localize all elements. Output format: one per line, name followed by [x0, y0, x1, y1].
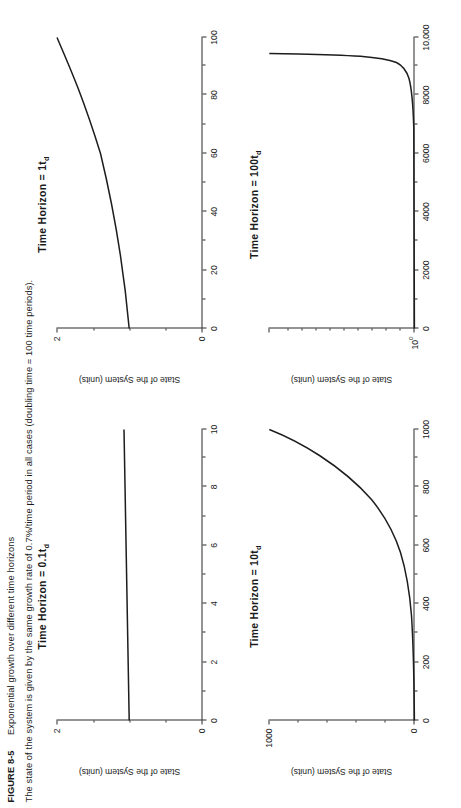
x-tick-label: 4 — [208, 601, 218, 606]
y-tick — [201, 720, 202, 724]
x-tick-label: 0 — [420, 718, 430, 723]
x-tick — [414, 93, 418, 94]
y-tick-label: 2 — [51, 728, 61, 733]
x-tick — [202, 719, 206, 720]
figure-rotated-canvas: FIGURE 8-5 Exponential growth over diffe… — [0, 0, 461, 808]
chart-title-0p1td: Time Horizon = 0.1td — [36, 410, 50, 782]
x-tick — [414, 428, 418, 429]
y-tick — [268, 720, 269, 724]
x-tick — [202, 485, 206, 486]
series-line-0p1td — [56, 428, 202, 720]
x-tick — [202, 36, 206, 37]
y-tick — [56, 328, 57, 332]
y-tick — [56, 720, 57, 724]
y-tick-label: 0 — [196, 336, 206, 341]
x-tick-label: 0 — [208, 326, 218, 331]
figure-title: Exponential growth over different time h… — [5, 536, 15, 734]
x-tick — [202, 602, 206, 603]
y-tick-label: 0 — [196, 728, 206, 733]
y-tick — [268, 328, 269, 332]
y-tick-label-log: 100 — [407, 336, 420, 349]
y-tick-label: 1000 — [263, 728, 273, 747]
x-tick-label: 400 — [420, 596, 430, 610]
series-line-10td — [268, 428, 414, 720]
x-tick-label: 10 — [208, 424, 218, 434]
y-axis-title-100td: State of the System (units) — [268, 372, 414, 386]
y-tick — [413, 328, 414, 332]
x-tick-label: 10,000 — [420, 24, 430, 50]
x-tick-label: 800 — [420, 479, 430, 493]
figure-caption-text: The state of the system is given by the … — [22, 102, 34, 802]
figure-number-label: FIGURE 8-5 — [5, 750, 15, 802]
chart-title-100td: Time Horizon = 100td — [248, 18, 262, 390]
x-tick-label: 4000 — [420, 202, 430, 221]
x-tick-label: 1000 — [420, 419, 430, 438]
x-tick-label: 100 — [208, 30, 218, 44]
x-tick-label: 2 — [208, 659, 218, 664]
x-tick — [202, 269, 206, 270]
chart-grid: Time Horizon = 0.1td State of the System… — [36, 10, 456, 782]
x-tick-label: 600 — [420, 538, 430, 552]
x-tick-label: 8 — [208, 484, 218, 489]
x-tick — [414, 661, 418, 662]
plot-area-0p1td: 0 2 4 6 8 10 0 2 — [56, 428, 202, 720]
series-line-100td — [268, 36, 414, 328]
chart-panel-10td: Time Horizon = 10td State of the System … — [248, 410, 452, 782]
plot-area-100td: 0 2000 4000 6000 8000 10,000 — [268, 36, 414, 328]
x-tick — [202, 327, 206, 328]
x-tick-label: 0 — [420, 326, 430, 331]
x-tick-label: 40 — [208, 206, 218, 216]
figure-page: FIGURE 8-5 Exponential growth over diffe… — [0, 0, 461, 808]
y-tick — [413, 720, 414, 724]
chart-title-1td: Time Horizon = 1td — [36, 18, 50, 390]
plot-area-10td: 0 200 400 600 800 1000 0 1000 — [268, 428, 414, 720]
x-tick — [202, 210, 206, 211]
figure-caption-block: FIGURE 8-5 Exponential growth over diffe… — [4, 102, 34, 802]
x-tick — [202, 428, 206, 429]
x-tick — [414, 544, 418, 545]
x-tick — [202, 544, 206, 545]
chart-panel-0p1td: Time Horizon = 0.1td State of the System… — [36, 410, 240, 782]
series-line-1td — [56, 36, 202, 328]
chart-title-10td: Time Horizon = 10td — [248, 410, 262, 782]
x-tick — [414, 36, 418, 37]
x-tick-label: 6 — [208, 542, 218, 547]
x-tick-label: 200 — [420, 654, 430, 668]
x-tick-label: 20 — [208, 265, 218, 275]
x-tick-label: 60 — [208, 148, 218, 158]
plot-area-1td: 0 20 40 60 80 100 0 2 — [56, 36, 202, 328]
x-tick — [414, 485, 418, 486]
x-tick-label: 2000 — [420, 260, 430, 279]
y-tick-label: 2 — [51, 336, 61, 341]
chart-panel-100td: Time Horizon = 100td State of the System… — [248, 18, 452, 390]
x-tick — [202, 152, 206, 153]
chart-panel-1td: Time Horizon = 1td State of the System (… — [36, 18, 240, 390]
y-tick-label: 0 — [408, 728, 418, 733]
x-tick-label: 6000 — [420, 143, 430, 162]
y-axis-title-10td: State of the System (units) — [268, 764, 414, 778]
y-axis-title-0p1td: State of the System (units) — [56, 764, 202, 778]
x-tick — [202, 93, 206, 94]
x-tick-label: 80 — [208, 90, 218, 100]
x-tick-label: 0 — [208, 718, 218, 723]
y-axis-title-1td: State of the System (units) — [56, 372, 202, 386]
x-tick — [414, 602, 418, 603]
x-tick-label: 8000 — [420, 85, 430, 104]
x-tick — [202, 661, 206, 662]
figure-caption-headline: FIGURE 8-5 Exponential growth over diffe… — [4, 102, 16, 802]
y-tick — [201, 328, 202, 332]
